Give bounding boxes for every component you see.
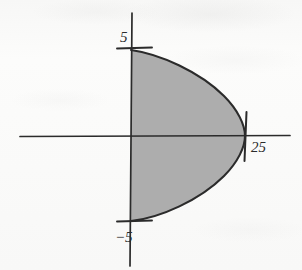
tick-x-25 bbox=[245, 112, 247, 161]
tick-y-neg5 bbox=[117, 221, 152, 222]
x-axis bbox=[20, 136, 290, 137]
figure-canvas: 5 −5 25 bbox=[0, 0, 302, 270]
parabola-plot bbox=[0, 0, 302, 270]
axis-label-y-positive: 5 bbox=[120, 30, 128, 45]
axis-label-x-vertex: 25 bbox=[251, 140, 266, 155]
tick-y-5 bbox=[117, 48, 152, 49]
axis-label-y-negative: −5 bbox=[115, 230, 133, 245]
